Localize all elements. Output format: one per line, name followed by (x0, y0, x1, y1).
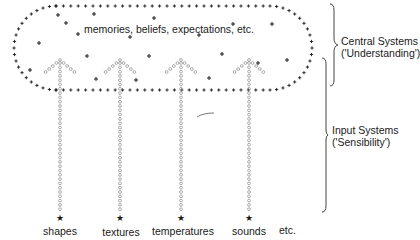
svg-text:★: ★ (56, 213, 64, 223)
input-systems-subtitle: ('Sensibility') (332, 136, 399, 148)
input-systems-title: Input Systems (332, 124, 399, 136)
input-arrows (44, 59, 265, 211)
source-star-icons: ★★★★ (56, 213, 253, 223)
input-label-sounds: sounds (232, 225, 266, 237)
svg-text:★: ★ (177, 213, 185, 223)
svg-text:★: ★ (245, 213, 253, 223)
input-label-etc: etc. (279, 224, 296, 236)
svg-text:★: ★ (116, 213, 124, 223)
input-label-shapes: shapes (43, 225, 77, 237)
central-systems-subtitle: ('Understanding') (341, 47, 420, 59)
central-systems-boundary (12, 4, 313, 91)
central-systems-bracket (330, 4, 338, 86)
input-label-temperatures: temperatures (152, 225, 214, 237)
central-systems-title: Central Systems (341, 35, 420, 47)
central-contents-label: memories, beliefs, expectations, etc. (84, 23, 254, 35)
stray-mark (197, 113, 214, 117)
input-systems-label: Input Systems ('Sensibility') (332, 124, 399, 148)
input-systems-bracket (322, 58, 328, 212)
input-label-textures: textures (102, 226, 139, 238)
central-systems-label: Central Systems ('Understanding') (341, 35, 420, 59)
